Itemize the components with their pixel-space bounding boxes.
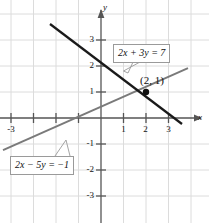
x-tick-label-1: 1: [117, 124, 130, 134]
y-tick-label-neg1: -1: [80, 138, 94, 148]
y-tick-label-1: 1: [83, 86, 94, 96]
graph-canvas: [0, 0, 209, 223]
y-tick-label-2: 2: [83, 60, 94, 70]
intersection-point-marker: [143, 89, 149, 95]
equation-2-callout: 2x − 5y = −1: [10, 156, 74, 175]
grid-lines: [0, 0, 209, 223]
y-tick-label-neg2: -2: [80, 164, 94, 174]
x-axis-label: x: [198, 112, 202, 122]
equation-1-callout: 2x + 3y = 7: [113, 44, 170, 63]
intersection-point-label: (2, 1): [140, 74, 164, 86]
equation-1-leader-line: [124, 62, 141, 73]
coordinate-graph-figure: 2x + 3y = 7 2x − 5y = −1 (2, 1) x y -3 1…: [0, 0, 209, 223]
y-axis-label: y: [103, 2, 107, 12]
y-tick-label-neg3: -3: [80, 190, 94, 200]
axes: [0, 10, 194, 223]
y-tick-label-3: 3: [83, 34, 94, 44]
x-tick-label-3: 3: [162, 124, 175, 134]
equation-2-leader-line: [55, 140, 70, 156]
x-tick-label-2: 2: [139, 124, 152, 134]
x-tick-label-neg3: -3: [3, 124, 19, 134]
